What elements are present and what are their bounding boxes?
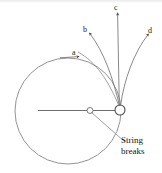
trajectory-d bbox=[121, 34, 149, 106]
caption-line-1: String bbox=[121, 135, 145, 146]
caption-leader-line bbox=[91, 112, 125, 142]
caption-line-2: breaks bbox=[121, 146, 145, 157]
trajectory-label-b: b bbox=[83, 25, 87, 34]
trajectory-b-inner bbox=[78, 52, 119, 106]
trajectory-label-d: d bbox=[148, 26, 152, 35]
trajectory-label-a: a bbox=[72, 48, 76, 57]
physics-diagram-figure: a b c d String breaks bbox=[0, 0, 162, 173]
trajectory-label-c: c bbox=[114, 3, 118, 12]
trajectory-a bbox=[60, 57, 79, 58]
trajectory-b bbox=[90, 33, 120, 106]
circular-path bbox=[15, 58, 121, 164]
ball bbox=[115, 105, 125, 115]
string-breaks-caption: String breaks bbox=[121, 135, 145, 157]
